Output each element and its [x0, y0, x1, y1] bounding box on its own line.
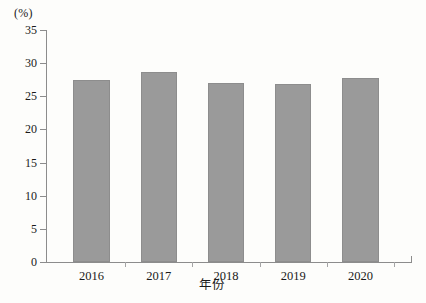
y-axis-tick-label: 20 [25, 123, 37, 135]
x-axis-line [46, 262, 412, 263]
y-axis-tick-mark [40, 196, 46, 197]
y-axis-tick-label: 25 [25, 90, 37, 102]
y-axis-tick-label: 5 [31, 223, 37, 235]
y-axis-tick-label: 15 [25, 157, 37, 169]
y-axis-tick-mark [40, 229, 46, 230]
x-axis-category-label: 2019 [281, 270, 306, 283]
y-axis-tick-mark [40, 262, 46, 263]
x-axis-tick-mark [260, 262, 261, 267]
y-axis-tick-label: 35 [25, 24, 37, 36]
bar [275, 84, 311, 262]
y-axis-tick-label: 0 [31, 256, 37, 268]
y-axis-tick-mark [40, 129, 46, 130]
y-axis-tick-mark [40, 63, 46, 64]
plot-area: 05101520253035 20162017201820192020 [46, 30, 412, 262]
x-axis-tick-mark [192, 262, 193, 267]
y-axis-tick-label: 10 [25, 190, 37, 202]
x-axis-category-label: 2016 [79, 270, 104, 283]
y-axis-tick-mark [40, 96, 46, 97]
y-axis-unit-label: (%) [14, 6, 33, 21]
x-axis-tick-mark [125, 262, 126, 267]
x-axis-end-tick [411, 256, 412, 262]
y-axis-tick-label: 30 [25, 57, 37, 69]
x-axis-title: 年份 [199, 279, 225, 292]
y-axis-line [46, 30, 47, 262]
x-axis-category-label: 2020 [348, 270, 373, 283]
bar [73, 80, 109, 262]
bar [141, 72, 177, 262]
bar-chart-figure: (%) 05101520253035 20162017201820192020 … [0, 0, 426, 303]
x-axis-tick-mark [394, 262, 395, 267]
y-axis-tick-mark [40, 30, 46, 31]
y-axis-tick-mark [40, 163, 46, 164]
x-axis-category-label: 2017 [146, 270, 171, 283]
bar [342, 78, 378, 262]
x-axis-tick-mark [327, 262, 328, 267]
bar [208, 83, 244, 262]
